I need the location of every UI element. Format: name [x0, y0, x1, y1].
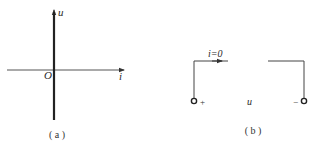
origin-label: O: [44, 69, 52, 81]
left-wire: [194, 61, 228, 98]
figure-a: u i O ( a ): [7, 6, 124, 141]
caption-b: ( b ): [245, 125, 262, 137]
figure-b: i=0 + u − ( b ): [191, 48, 306, 137]
right-wire: [268, 61, 304, 98]
minus-sign: −: [293, 97, 298, 107]
minus-terminal-icon: [301, 98, 306, 103]
x-axis-label: i: [119, 70, 122, 82]
y-axis-label: u: [58, 6, 64, 18]
plus-sign: +: [200, 97, 205, 107]
caption-a: ( a ): [49, 129, 65, 141]
diagram-canvas: u i O ( a ) i=0 + u − ( b ): [0, 0, 312, 152]
voltage-label: u: [247, 96, 252, 107]
current-label: i=0: [208, 48, 223, 59]
plus-terminal-icon: [191, 98, 196, 103]
